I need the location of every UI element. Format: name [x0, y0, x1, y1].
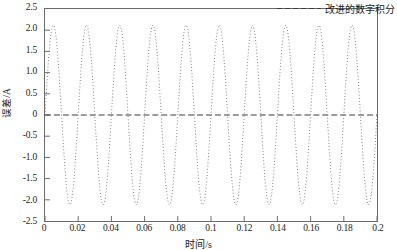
x-tick-label: 0.16: [303, 224, 319, 234]
x-tick-label: 0.12: [236, 224, 252, 234]
y-tick-label: 2.0: [26, 25, 37, 35]
x-tick-label: 0.14: [270, 224, 286, 234]
chart-legend: 改进的数字积分: [277, 1, 395, 16]
y-tick-label: -1.0: [23, 153, 37, 163]
y-tick-label: 1.5: [26, 46, 37, 56]
x-tick-label: 0.06: [136, 224, 152, 234]
x-axis-tick-labels: 00.020.040.060.080.10.120.140.160.180.2: [44, 224, 378, 236]
x-tick-label: 0.18: [337, 224, 353, 234]
x-tick-label: 0.04: [103, 224, 119, 234]
y-tick-label: 0: [32, 110, 37, 120]
x-tick-label: 0.1: [205, 224, 216, 234]
y-axis-title: 误差/A: [0, 79, 13, 127]
y-tick-label: 1.0: [26, 67, 37, 77]
plot-area: [44, 8, 378, 222]
x-axis-title: 时间/s: [0, 236, 397, 250]
legend-label: 改进的数字积分: [325, 1, 395, 16]
x-tick-label: 0.02: [69, 224, 85, 234]
y-tick-label: -0.5: [23, 132, 37, 142]
x-tick-label: 0.08: [170, 224, 186, 234]
y-tick-label: -2.5: [23, 217, 37, 227]
chart-figure: 2.52.01.51.00.50-0.5-1.0-1.5-2.0-2.5 误差/…: [0, 0, 397, 250]
y-tick-label: -1.5: [23, 174, 37, 184]
x-tick-label: 0: [42, 224, 47, 234]
x-tick-label: 0.2: [372, 224, 383, 234]
legend-line-swatch: [277, 8, 321, 9]
plot-canvas: [45, 9, 377, 221]
y-tick-label: 2.5: [26, 3, 37, 13]
y-tick-label: 0.5: [26, 89, 37, 99]
y-tick-label: -2.0: [23, 196, 37, 206]
axis-tick-marks: [45, 30, 377, 221]
